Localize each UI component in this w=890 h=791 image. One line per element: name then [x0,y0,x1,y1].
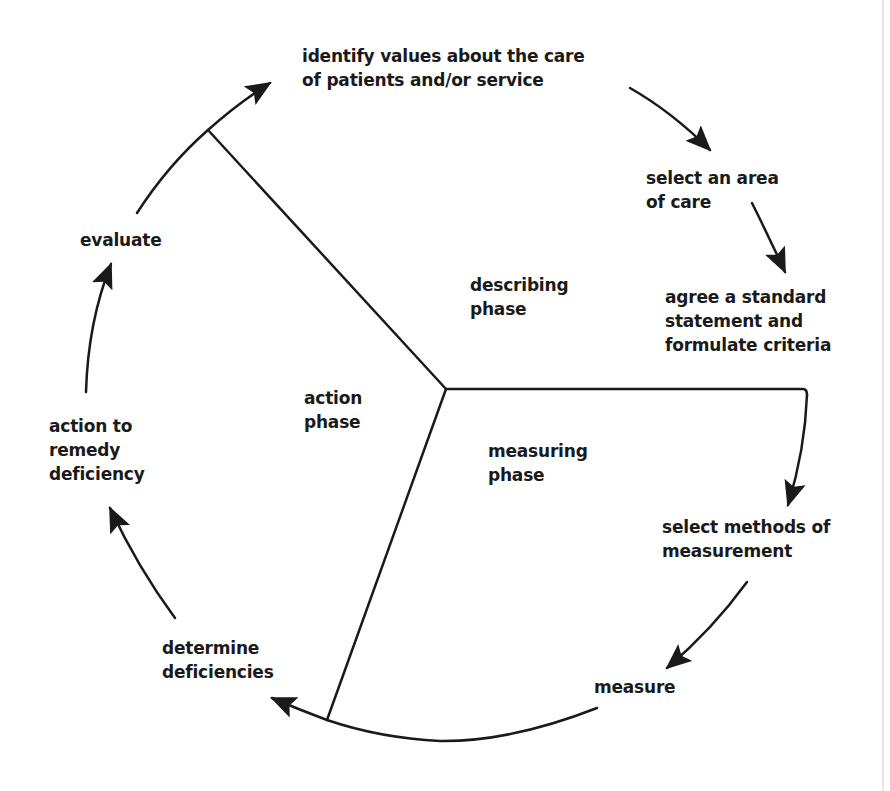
step-identify-values: identify values about the care of patien… [302,44,585,92]
arrow-evaluate-to-identify [137,83,270,213]
step-measure: measure [594,675,675,699]
spoke-action-measuring [327,389,446,720]
step-select-methods: select methods of measurement [662,515,830,563]
spoke-describing-measuring [446,389,807,395]
step-select-area: select an area of care [646,166,779,214]
step-determine-deficiencies: determine deficiencies [162,636,274,684]
arrow-action-to-evaluate [86,264,111,392]
phase-measuring: measuring phase [488,439,588,487]
arrow-agree-to-select-methods [788,395,807,505]
diagram-graphics [0,0,890,791]
spoke-describing-action [208,130,446,389]
phase-describing: describing phase [470,273,568,321]
arrow-identify-to-select-area [630,88,710,150]
phase-action: action phase [304,386,362,434]
arrow-measure-to-determine [272,698,597,741]
quality-cycle-diagram: identify values about the care of patien… [0,0,890,791]
step-evaluate: evaluate [80,228,162,252]
arrow-determine-to-action [110,508,175,618]
step-action-remedy: action to remedy deficiency [49,414,145,486]
arrow-select-methods-to-measure [667,582,747,668]
step-agree-standard: agree a standard statement and formulate… [665,285,831,357]
